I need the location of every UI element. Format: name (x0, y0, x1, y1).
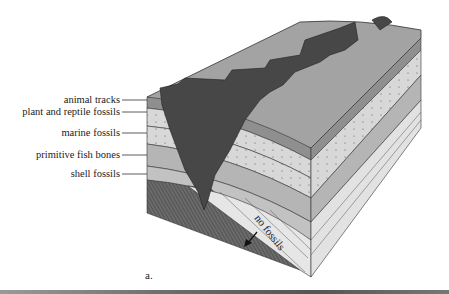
label-marine-fossils: marine fossils (61, 127, 120, 139)
label-primitive-fish-bones: primitive fish bones (36, 149, 120, 161)
figure-caption: a. (145, 269, 153, 281)
page-edge-strip (0, 290, 449, 294)
label-shell-fossils: shell fossils (71, 168, 120, 180)
strata-block-illustration (0, 0, 449, 294)
geologic-block-diagram: animal tracks plant and reptile fossils … (0, 0, 449, 294)
label-animal-tracks: animal tracks (64, 94, 120, 106)
leader-lines (122, 100, 147, 174)
label-plant-reptile-fossils: plant and reptile fossils (22, 106, 120, 118)
